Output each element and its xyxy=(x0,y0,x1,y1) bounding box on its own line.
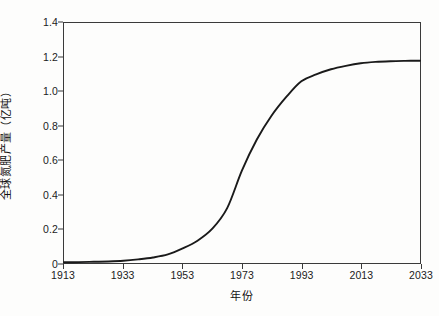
y-tick-label: 1.2 xyxy=(43,51,58,63)
y-axis-title: 全球氮肥产量（亿吨） xyxy=(0,43,13,243)
plot-area xyxy=(63,22,421,264)
y-tick-label: 0.2 xyxy=(43,223,58,235)
y-tick-label: 1.0 xyxy=(43,85,58,97)
y-axis-title-label: 全球氮肥产量（亿吨） xyxy=(0,43,13,243)
line-series-path xyxy=(64,61,420,263)
x-tick-mark xyxy=(302,264,303,269)
x-tick-label: 1993 xyxy=(290,269,314,281)
x-tick-label: 1953 xyxy=(170,269,194,281)
chart-figure: 00.20.40.60.81.01.21.4 19131933195319731… xyxy=(0,0,439,316)
y-tick-label: 0.4 xyxy=(43,189,58,201)
y-tick-label: 1.4 xyxy=(43,16,58,28)
line-series-path-container xyxy=(64,23,420,263)
x-tick-mark xyxy=(63,264,64,269)
y-tick-label: 0.8 xyxy=(43,120,58,132)
x-tick-mark xyxy=(242,264,243,269)
x-tick-label: 2013 xyxy=(349,269,373,281)
x-tick-mark xyxy=(123,264,124,269)
x-tick-label: 1933 xyxy=(111,269,135,281)
x-axis-title: 年份 xyxy=(63,287,421,303)
y-tick-label: 0.6 xyxy=(43,154,58,166)
x-tick-label: 1973 xyxy=(230,269,254,281)
x-tick-mark xyxy=(182,264,183,269)
x-tick-mark xyxy=(421,264,422,269)
x-tick-mark xyxy=(361,264,362,269)
x-tick-label: 2033 xyxy=(409,269,433,281)
x-tick-label: 1913 xyxy=(51,269,75,281)
